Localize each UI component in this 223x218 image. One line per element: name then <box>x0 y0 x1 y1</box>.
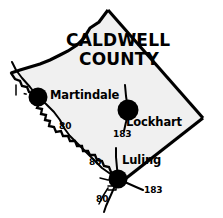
city-label-martindale: Martindale <box>50 90 119 102</box>
city-label-lockhart: Lockhart <box>126 117 182 129</box>
highway-label-80-north: 80 <box>59 122 71 131</box>
county-title-line2: COUNTY <box>79 51 159 68</box>
highway-label-183-luling: 183 <box>144 186 163 195</box>
caldwell-county-map: CALDWELL COUNTY Martindale Lockhart Luli… <box>0 0 223 218</box>
city-label-luling: Luling <box>122 155 161 167</box>
highway-label-183-lockhart: 183 <box>113 130 132 139</box>
county-title-line1: CALDWELL <box>66 32 170 49</box>
highway-label-80-south: 80 <box>96 195 108 204</box>
highway-label-80-middle: 80 <box>89 158 101 167</box>
city-dot-luling <box>109 170 128 189</box>
city-dot-martindale <box>29 88 48 107</box>
